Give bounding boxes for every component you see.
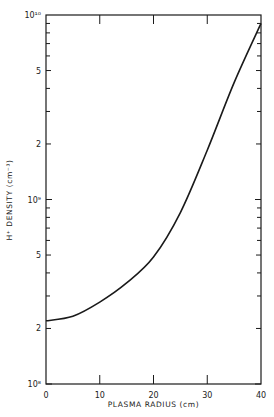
x-tick-label: 40 bbox=[256, 391, 266, 400]
y-tick-label: 10⁹ bbox=[28, 196, 41, 205]
x-tick-label: 10 bbox=[95, 391, 105, 400]
y-tick-label: 10¹⁰ bbox=[24, 11, 41, 20]
x-tick-label: 20 bbox=[148, 391, 158, 400]
x-axis-label: PLASMA RADIUS (cm) bbox=[108, 400, 200, 409]
y-tick-label: 2 bbox=[36, 140, 41, 149]
y-axis-ticks: 10⁸2510⁹2510¹⁰ bbox=[24, 11, 261, 389]
density-chart: 10⁸2510⁹2510¹⁰ 010203040 PLASMA RADIUS (… bbox=[0, 0, 274, 417]
y-tick-label: 2 bbox=[36, 324, 41, 333]
density-curve bbox=[46, 23, 261, 320]
y-axis-label: H⁺ DENSITY (cm⁻³) bbox=[5, 159, 14, 240]
y-tick-label: 5 bbox=[36, 251, 41, 260]
y-tick-label: 5 bbox=[36, 67, 41, 76]
x-tick-label: 30 bbox=[202, 391, 212, 400]
x-axis-ticks: 010203040 bbox=[43, 15, 266, 400]
y-tick-label: 10⁸ bbox=[28, 380, 41, 389]
x-tick-label: 0 bbox=[43, 391, 48, 400]
plot-frame bbox=[46, 15, 261, 384]
